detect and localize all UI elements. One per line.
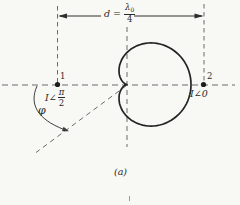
- element2-current-label: I∠0: [190, 89, 208, 99]
- dimension-label: d = λ0 4: [104, 3, 135, 24]
- dimension-fraction: λ0 4: [124, 3, 135, 24]
- dimension-denominator: 4: [127, 15, 132, 24]
- dimension-arrow-left-icon: [58, 13, 67, 18]
- pi-symbol: π: [58, 88, 66, 98]
- antenna-array-figure: d = λ0 4 1 I∠ π 2 2 I∠0 φ (a): [0, 0, 240, 205]
- element1-current-fraction: π 2: [58, 88, 66, 107]
- figure-caption: (a): [114, 167, 127, 177]
- phi-angle-label: φ: [38, 105, 46, 116]
- element1-current-label: I∠ π 2: [45, 88, 65, 107]
- element1-current-denominator: 2: [59, 98, 64, 107]
- element2-number-label: 2: [207, 72, 212, 81]
- element1-current-prefix: I∠: [45, 93, 57, 103]
- lambda-subscript: 0: [130, 6, 134, 13]
- dimension-arrow-right-icon: [195, 13, 204, 18]
- element1-number-label: 1: [60, 72, 65, 81]
- dimension-prefix: d =: [104, 9, 121, 19]
- element2-dot: [201, 82, 206, 87]
